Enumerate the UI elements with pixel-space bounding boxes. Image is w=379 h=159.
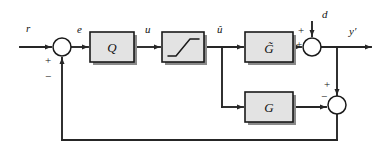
feedback-sum-plus-sign: + bbox=[324, 78, 330, 90]
disturbance-summing-junction[interactable] bbox=[303, 38, 321, 56]
controller-block-label: Q bbox=[107, 40, 117, 55]
error-summing-junction[interactable] bbox=[53, 38, 71, 56]
branch-dot-output bbox=[336, 46, 338, 48]
branch-dot-uhat bbox=[221, 46, 223, 48]
disturbance-signal-label: d bbox=[322, 8, 328, 20]
output-signal-label: y′ bbox=[348, 25, 357, 37]
saturated-control-signal-label: û bbox=[217, 23, 223, 35]
reference-signal-label: r bbox=[26, 22, 31, 34]
disturbance-sum-plus-left-sign: + bbox=[296, 38, 302, 50]
plant-block-label: G bbox=[264, 100, 274, 115]
control-signal-label: u bbox=[145, 23, 151, 35]
feedback-sum-minus-sign: − bbox=[321, 90, 327, 102]
model-block-label: G̃ bbox=[264, 41, 274, 56]
error-signal-label: e bbox=[77, 23, 82, 35]
disturbance-sum-plus-top-sign: + bbox=[298, 24, 304, 36]
block-diagram-svg: Q G̃ G r e u û d y′ + − + + − + bbox=[0, 0, 379, 159]
error-sum-minus-sign: − bbox=[45, 70, 51, 82]
error-sum-plus-sign: + bbox=[45, 54, 51, 66]
block-diagram-canvas: Q G̃ G r e u û d y′ + − + + − + bbox=[0, 0, 379, 159]
feedback-summing-junction[interactable] bbox=[328, 96, 346, 114]
